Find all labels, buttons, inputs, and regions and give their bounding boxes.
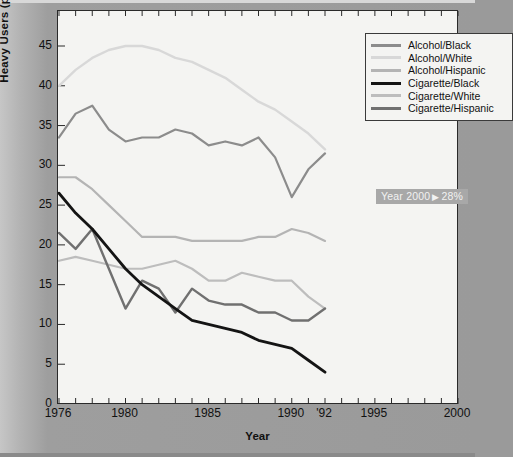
annotation-value: 28%	[442, 190, 464, 202]
x-tick-label: 1995	[361, 406, 388, 420]
y-axis-tick-labels: 051015202530354045	[14, 0, 52, 457]
legend-swatch-icon	[371, 107, 401, 110]
y-tick-label: 5	[18, 356, 52, 370]
legend-item-label: Cigarette/Hispanic	[408, 102, 494, 114]
x-tick-label: 1985	[194, 406, 221, 420]
series-line	[59, 257, 325, 309]
legend-item-label: Alcohol/Hispanic	[408, 64, 486, 76]
annotation-year-2000: Year 2000▶28%	[376, 189, 468, 204]
legend-swatch-icon	[371, 44, 401, 47]
legend-item[interactable]: Alcohol/White	[371, 52, 506, 65]
legend-item[interactable]: Cigarette/Black	[371, 77, 506, 90]
y-axis-title: Heavy Users (percent)	[0, 0, 10, 120]
legend-item[interactable]: Alcohol/Black	[371, 39, 506, 52]
annotation-prefix: Year 2000	[381, 190, 430, 202]
plot-area: Alcohol/BlackAlcohol/WhiteAlcohol/Hispan…	[57, 10, 458, 404]
series-line	[59, 106, 325, 197]
x-axis-tick-labels: 1976198019851990'9219952000	[57, 406, 458, 426]
legend-swatch-icon	[371, 82, 401, 85]
series-line	[59, 193, 325, 372]
legend-swatch-icon	[371, 56, 401, 59]
x-tick-label: 1980	[111, 406, 138, 420]
x-tick-label: 1990	[277, 406, 304, 420]
annotation-arrow-icon: ▶	[430, 192, 441, 202]
y-tick-label: 20	[18, 237, 52, 251]
legend-item[interactable]: Cigarette/Hispanic	[371, 102, 506, 115]
x-tick-label: '92	[316, 406, 332, 420]
chart-legend: Alcohol/BlackAlcohol/WhiteAlcohol/Hispan…	[365, 33, 513, 121]
y-tick-label: 45	[18, 38, 52, 52]
y-tick-label: 25	[18, 197, 52, 211]
legend-item-label: Alcohol/White	[408, 52, 472, 64]
legend-item-label: Cigarette/White	[408, 90, 480, 102]
legend-item[interactable]: Cigarette/White	[371, 89, 506, 102]
legend-item-label: Alcohol/Black	[408, 39, 471, 51]
legend-item[interactable]: Alcohol/Hispanic	[371, 64, 506, 77]
y-tick-label: 15	[18, 277, 52, 291]
legend-swatch-icon	[371, 69, 401, 72]
series-line	[59, 177, 325, 241]
legend-item-label: Cigarette/Black	[408, 77, 479, 89]
x-axis-title: Year	[57, 430, 458, 442]
y-tick-label: 40	[18, 78, 52, 92]
x-tick-label: 2000	[444, 406, 471, 420]
y-tick-label: 10	[18, 316, 52, 330]
legend-swatch-icon	[371, 94, 401, 97]
series-line	[59, 229, 325, 320]
x-tick-label: 1976	[45, 406, 72, 420]
y-tick-label: 35	[18, 118, 52, 132]
y-tick-label: 30	[18, 157, 52, 171]
